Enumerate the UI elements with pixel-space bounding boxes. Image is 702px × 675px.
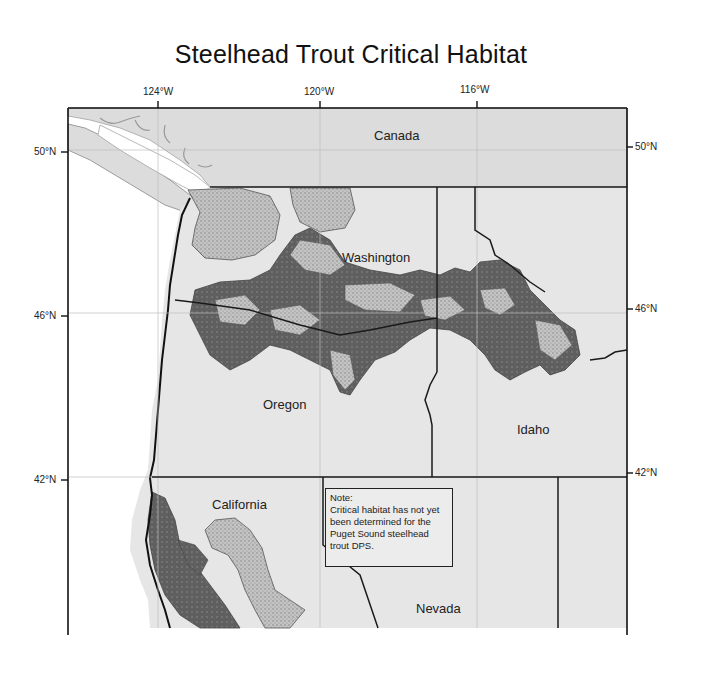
note-box: Note: Critical habitat has not yet been … xyxy=(325,488,453,567)
lat-tick-label-left: 46°N xyxy=(34,310,56,321)
region-label-canada: Canada xyxy=(374,128,420,143)
note-text: Critical habitat has not yet been determ… xyxy=(330,504,448,552)
region-label-washington: Washington xyxy=(342,250,410,265)
lon-tick-label: 116°W xyxy=(460,84,489,95)
lat-tick-label-left: 42°N xyxy=(34,474,56,485)
region-label-idaho: Idaho xyxy=(517,422,550,437)
lon-tick-label: 124°W xyxy=(143,86,173,97)
lat-tick-label-left: 50°N xyxy=(34,146,56,157)
lat-tick-label-right: 46°N xyxy=(635,303,657,314)
lat-tick-label-right: 42°N xyxy=(635,467,657,478)
lon-tick-label: 120°W xyxy=(304,86,334,97)
region-label-nevada: Nevada xyxy=(416,601,461,616)
lat-tick-label-right: 50°N xyxy=(635,141,657,152)
region-label-oregon: Oregon xyxy=(263,397,306,412)
map-canvas xyxy=(0,0,702,675)
region-label-california: California xyxy=(212,497,267,512)
note-heading: Note: xyxy=(330,492,448,504)
